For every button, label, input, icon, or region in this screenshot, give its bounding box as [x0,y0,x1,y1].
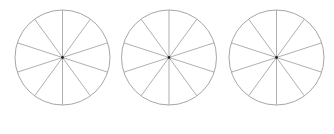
center-point [61,56,64,59]
circle-2 [122,10,217,105]
center-point [168,56,171,59]
center-point [275,56,278,59]
circle-1 [15,10,110,105]
circle-3 [229,10,324,105]
divided-circles-diagram [0,0,334,134]
